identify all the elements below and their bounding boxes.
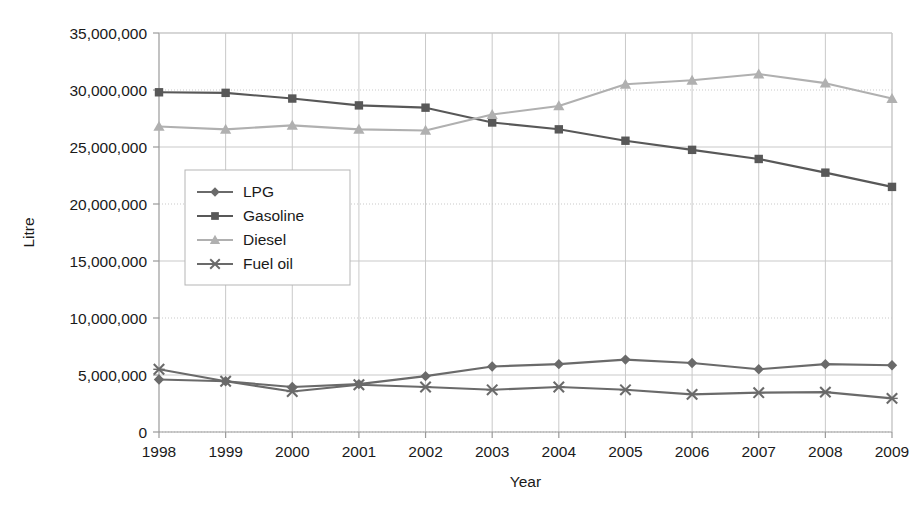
x-tick-label: 1998 [142, 443, 176, 460]
y-axis-title: Litre [20, 217, 37, 247]
x-tick-label: 2000 [275, 443, 310, 460]
legend-label: Gasoline [243, 207, 304, 224]
y-tick-label: 25,000,000 [69, 139, 147, 156]
legend-label: Fuel oil [243, 255, 293, 272]
data-point-marker-diamond [487, 361, 497, 371]
data-point-marker-diamond [687, 358, 697, 368]
data-point-marker-square [488, 118, 496, 126]
legend-label: LPG [243, 183, 274, 200]
chart-legend: LPGGasolineDieselFuel oil [185, 170, 350, 285]
chart-canvas: 35,000,00030,000,00025,000,00020,000,000… [0, 0, 923, 511]
x-tick-label: 2005 [608, 443, 642, 460]
y-tick-label: 0 [138, 424, 147, 441]
data-point-marker-square [355, 101, 363, 109]
data-point-marker-square [688, 146, 696, 154]
data-point-marker-square [421, 103, 429, 111]
data-point-marker-diamond [754, 364, 764, 374]
series-line-fuel-oil [159, 369, 892, 398]
data-point-marker-square [755, 155, 763, 163]
data-point-marker-square [221, 89, 229, 97]
x-axis-title: Year [510, 473, 541, 490]
data-point-marker-square [555, 125, 563, 133]
data-point-marker-diamond [420, 371, 430, 381]
data-point-marker-square [288, 94, 296, 102]
x-tick-label: 2001 [342, 443, 376, 460]
x-tick-label: 2009 [875, 443, 909, 460]
x-tick-label: 2007 [741, 443, 775, 460]
x-tick-label: 2008 [808, 443, 842, 460]
legend-label: Diesel [243, 231, 286, 248]
y-tick-label: 15,000,000 [69, 253, 147, 270]
data-point-marker-diamond [820, 359, 830, 369]
data-point-marker-square [888, 183, 896, 191]
data-point-marker-square [621, 137, 629, 145]
x-tick-label: 2002 [408, 443, 442, 460]
x-tick-label: 2004 [542, 443, 577, 460]
data-point-marker-square [155, 88, 163, 96]
data-point-marker-diamond [620, 354, 630, 364]
data-point-marker-diamond [154, 374, 164, 384]
data-point-marker-square [821, 168, 829, 176]
data-point-marker-diamond [554, 359, 564, 369]
y-tick-label: 5,000,000 [78, 367, 147, 384]
x-tick-label: 2006 [675, 443, 709, 460]
fuel-consumption-line-chart: 35,000,00030,000,00025,000,00020,000,000… [0, 0, 923, 511]
series-line-lpg [159, 360, 892, 387]
data-point-marker-diamond [887, 360, 897, 370]
y-tick-label: 30,000,000 [69, 82, 147, 99]
x-tick-label: 1999 [208, 443, 242, 460]
y-tick-label: 20,000,000 [69, 196, 147, 213]
series-line-diesel [159, 74, 892, 130]
y-tick-label: 10,000,000 [69, 310, 147, 327]
data-point-marker-square [211, 212, 219, 220]
y-tick-label: 35,000,000 [69, 25, 147, 42]
x-tick-label: 2003 [475, 443, 509, 460]
